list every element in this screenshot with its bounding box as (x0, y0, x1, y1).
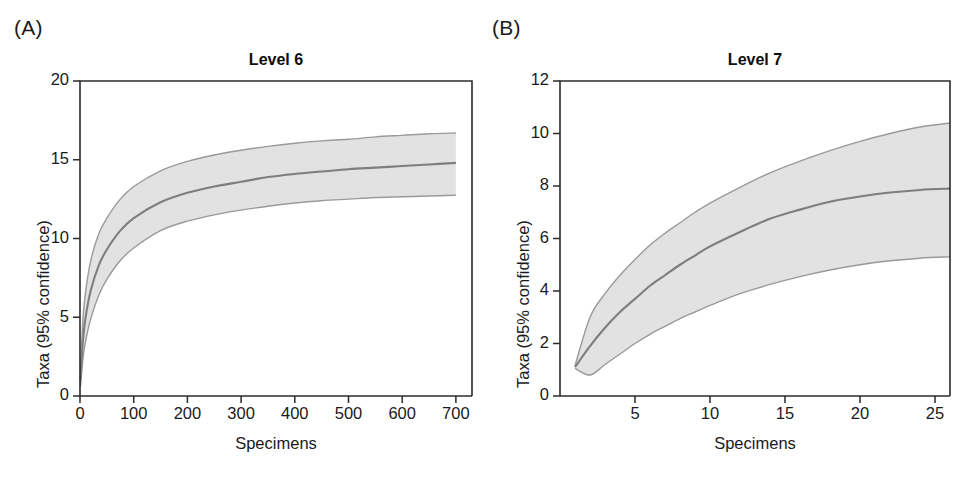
svg-text:15: 15 (776, 404, 794, 422)
svg-text:20: 20 (851, 404, 869, 422)
svg-text:700: 700 (442, 404, 470, 422)
svg-text:12: 12 (531, 70, 549, 88)
svg-text:4: 4 (540, 280, 549, 298)
panel-b: (B) Level 7 Taxa (95% confidence) Specim… (486, 0, 972, 484)
svg-text:100: 100 (120, 404, 148, 422)
svg-text:10: 10 (51, 228, 69, 246)
panel-b-plot: 024681012510152025 (486, 0, 972, 484)
svg-text:600: 600 (388, 404, 416, 422)
svg-text:500: 500 (335, 404, 363, 422)
svg-text:5: 5 (630, 404, 639, 422)
svg-text:200: 200 (174, 404, 202, 422)
panel-a: (A) Level 6 Taxa (95% confidence) Specim… (0, 0, 486, 484)
svg-text:15: 15 (51, 149, 69, 167)
panel-a-plot: 051015200100200300400500600700 (0, 0, 486, 484)
svg-text:20: 20 (51, 70, 69, 88)
svg-text:0: 0 (540, 385, 549, 403)
figure-rarefaction-curves: (A) Level 6 Taxa (95% confidence) Specim… (0, 0, 972, 484)
svg-text:400: 400 (281, 404, 309, 422)
svg-text:2: 2 (540, 333, 549, 351)
svg-text:0: 0 (60, 385, 69, 403)
svg-text:10: 10 (531, 123, 549, 141)
svg-text:10: 10 (701, 404, 719, 422)
svg-text:6: 6 (540, 228, 549, 246)
svg-text:25: 25 (926, 404, 944, 422)
svg-text:0: 0 (75, 404, 84, 422)
svg-text:8: 8 (540, 175, 549, 193)
svg-text:300: 300 (227, 404, 255, 422)
svg-text:5: 5 (60, 307, 69, 325)
